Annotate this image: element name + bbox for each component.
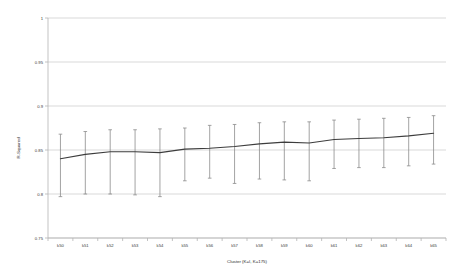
x-tick-label: k51 xyxy=(82,243,89,248)
x-tick-label: k56 xyxy=(206,243,213,248)
r-squared-line-chart: 0.750.80.850.90.951 k50k51k52k53k54k55k5… xyxy=(0,0,471,275)
x-tick-label: k52 xyxy=(107,243,114,248)
x-tick-label: k63 xyxy=(380,243,387,248)
y-tick-label: 0.95 xyxy=(35,60,44,65)
x-tick-label: k53 xyxy=(132,243,139,248)
x-tick-label: k61 xyxy=(331,243,338,248)
x-tick-label: k54 xyxy=(157,243,164,248)
y-tick-label: 0.8 xyxy=(37,192,43,197)
y-tick-label: 0.85 xyxy=(35,148,44,153)
y-axis-title: R-Squared xyxy=(16,137,21,159)
y-tick-label: 0.75 xyxy=(35,236,44,241)
x-tick-label: k59 xyxy=(281,243,288,248)
x-tick-label: k62 xyxy=(356,243,363,248)
x-tick-label: k55 xyxy=(181,243,188,248)
chart-container: 0.750.80.850.90.951 k50k51k52k53k54k55k5… xyxy=(0,0,471,275)
chart-background xyxy=(0,0,471,275)
x-tick-label: k65 xyxy=(430,243,437,248)
x-tick-label: k57 xyxy=(231,243,238,248)
x-axis-title: Cluster (K=I, K=175) xyxy=(227,259,268,264)
x-tick-label: k50 xyxy=(57,243,64,248)
y-tick-label: 0.9 xyxy=(37,104,43,109)
x-tick-label: k64 xyxy=(405,243,412,248)
x-tick-label: k58 xyxy=(256,243,263,248)
x-tick-label: k60 xyxy=(306,243,313,248)
